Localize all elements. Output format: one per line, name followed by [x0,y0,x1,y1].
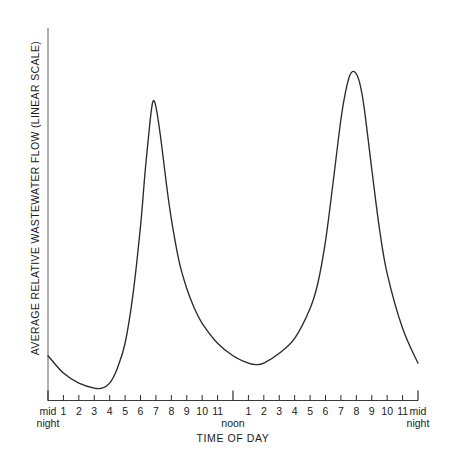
x-tick-label-line2: noon [213,417,253,429]
x-tick-label-line2: night [398,417,438,429]
x-tick-label-line2: night [28,417,68,429]
x-tick-label-line1: mid [398,405,438,417]
x-tick-label-24: midnight [398,405,438,429]
x-axis-ticks [48,391,418,401]
plot-area [0,0,450,471]
wastewater-flow-chart: AVERAGE RELATIVE WASTEWATER FLOW (LINEAR… [0,0,450,471]
x-axis-title: TIME OF DAY [48,432,418,444]
flow-curve-line [48,71,418,388]
